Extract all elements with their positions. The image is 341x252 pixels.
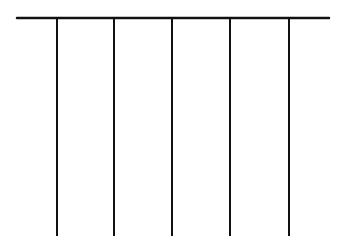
vertical-legs — [57, 18, 289, 236]
comb-diagram — [0, 0, 341, 252]
